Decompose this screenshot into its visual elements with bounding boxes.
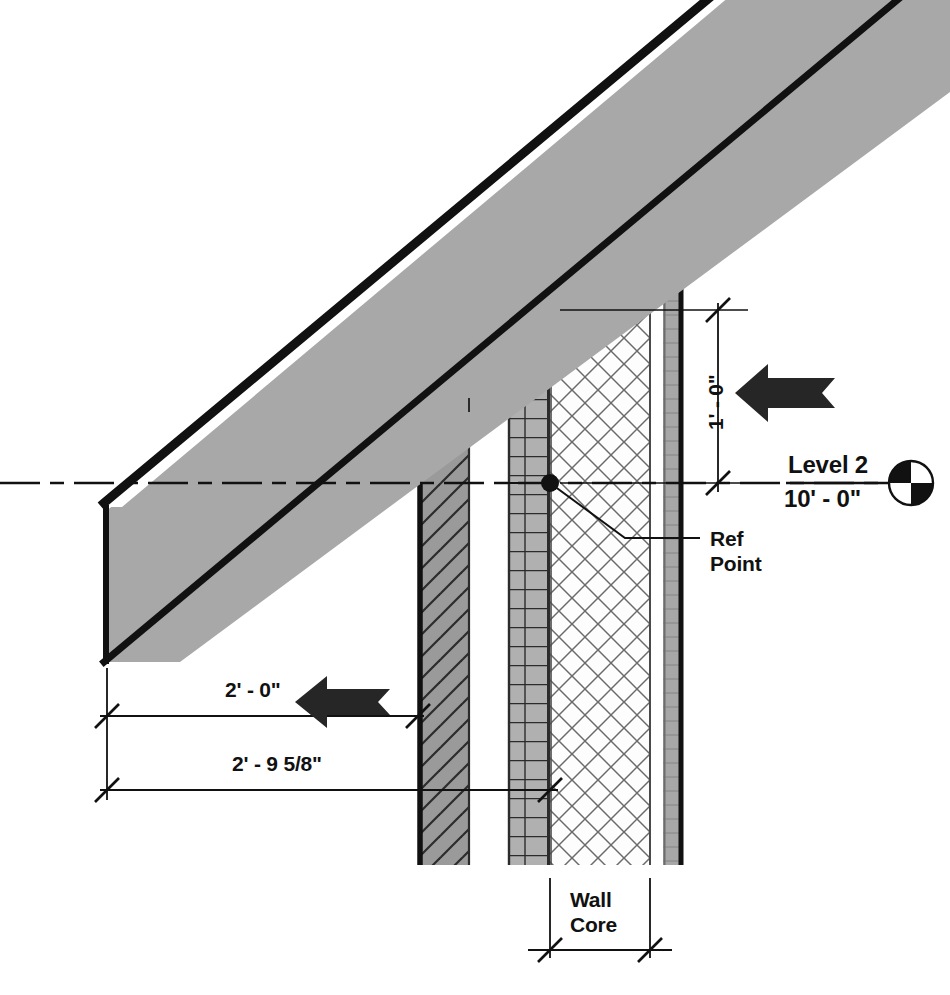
arrow-horizontal-note-icon xyxy=(295,676,390,728)
ref-point-label-line1: Ref xyxy=(710,527,743,551)
dimension-text-horizontal-face-offset: 2' - 0" xyxy=(225,678,281,702)
dimension-horizontal-core-offset xyxy=(95,778,562,802)
ref-point-label-line2: Point xyxy=(710,552,762,576)
drawing-canvas: 1' - 0" 2' - 0" 2' - 9 5/8" Ref Point Wa… xyxy=(0,0,950,995)
level-name: Level 2 xyxy=(788,452,868,479)
wall-layer-interior-finish xyxy=(663,222,683,865)
dimension-text-vertical-offset: 1' - 0" xyxy=(704,374,728,430)
wall-layer-brick-coursing xyxy=(508,337,550,865)
ref-point-dot xyxy=(541,474,559,492)
wall-core-label-line1: Wall xyxy=(570,888,612,912)
level-datum-symbol-icon xyxy=(889,461,933,505)
dimension-text-horizontal-core-offset: 2' - 9 5/8" xyxy=(232,752,322,776)
arrow-vertical-note-icon xyxy=(735,364,835,422)
level-elevation: 10' - 0" xyxy=(784,486,861,513)
wall-core-label-line2: Core xyxy=(570,913,617,937)
